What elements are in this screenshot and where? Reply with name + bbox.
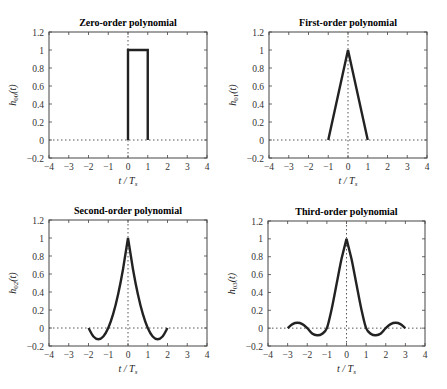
y-tick-label: −0.2	[246, 342, 263, 352]
y-tick-label: 0.2	[252, 118, 264, 128]
y-tick-label: −0.2	[27, 154, 44, 164]
y-tick-label: −0.2	[247, 154, 264, 164]
x-tick-label: 4	[425, 162, 430, 172]
y-tick-label: 1.2	[252, 28, 264, 38]
y-tick-label: 1	[259, 46, 264, 56]
figure: −4−3−2−101234−0.200.20.40.60.811.2Zero-o…	[0, 0, 447, 389]
x-tick-label: −2	[303, 162, 313, 172]
y-tick-label: 1	[39, 234, 44, 244]
subplot-title: Third-order polynomial	[295, 206, 398, 217]
y-tick-label: 0.8	[252, 64, 264, 74]
y-tick-label: 0.8	[32, 64, 44, 74]
x-tick-label: −4	[263, 350, 273, 360]
x-tick-label: −3	[284, 162, 294, 172]
y-tick-label: 0.6	[252, 82, 264, 92]
x-tick-label: −3	[64, 162, 74, 172]
impulse-response-curve	[128, 50, 148, 140]
x-tick-label: 3	[405, 162, 410, 172]
x-tick-label: 0	[344, 350, 349, 360]
x-tick-label: −1	[323, 162, 333, 172]
x-tick-label: 0	[346, 162, 351, 172]
x-tick-label: −1	[103, 350, 113, 360]
x-tick-label: 0	[126, 162, 131, 172]
x-tick-label: 1	[365, 162, 370, 172]
y-axis-label: h00(t)	[7, 84, 20, 106]
x-axis-label: t / Ts	[337, 363, 356, 376]
subplot-title: First-order polynomial	[299, 17, 397, 28]
x-tick-label: 3	[403, 350, 408, 360]
x-tick-label: −3	[283, 350, 293, 360]
x-tick-label: −2	[83, 162, 93, 172]
impulse-response-curve	[328, 50, 368, 140]
y-tick-label: 0.8	[32, 252, 44, 262]
y-tick-label: 1.2	[32, 216, 44, 226]
x-tick-label: −4	[44, 350, 54, 360]
x-tick-label: −1	[322, 350, 332, 360]
x-tick-label: 3	[185, 350, 190, 360]
y-tick-label: 0.6	[251, 270, 263, 280]
x-tick-label: −3	[64, 350, 74, 360]
x-tick-label: 4	[423, 350, 428, 360]
x-tick-label: −4	[264, 162, 274, 172]
x-tick-label: −2	[302, 350, 312, 360]
x-tick-label: 1	[145, 350, 150, 360]
x-tick-label: 1	[145, 162, 150, 172]
y-tick-label: 0.4	[251, 288, 263, 298]
x-axis-label: t / Ts	[119, 175, 138, 188]
y-tick-label: 0.6	[32, 270, 44, 280]
subplot-2: −4−3−2−101234−0.200.20.40.60.811.2First-…	[227, 17, 430, 188]
y-tick-label: 1.2	[251, 217, 263, 227]
y-tick-label: 0	[258, 324, 263, 334]
y-tick-label: 1	[39, 46, 44, 56]
x-tick-label: 3	[185, 162, 190, 172]
y-tick-label: 0	[39, 136, 44, 146]
y-tick-label: 0.4	[252, 100, 264, 110]
y-tick-label: 1	[258, 234, 263, 244]
y-tick-label: 0.4	[32, 100, 44, 110]
y-tick-label: 0.8	[251, 252, 263, 262]
subplot-4: −4−3−2−101234−0.200.20.40.60.811.2Third-…	[226, 206, 428, 376]
y-tick-label: −0.2	[27, 342, 44, 352]
x-tick-label: 4	[205, 350, 210, 360]
x-tick-label: 0	[126, 350, 131, 360]
x-tick-label: 2	[383, 350, 388, 360]
x-tick-label: 1	[364, 350, 369, 360]
y-tick-label: 0.2	[251, 306, 263, 316]
subplot-title: Zero-order polynomial	[79, 17, 177, 28]
x-axis-label: t / Ts	[119, 363, 138, 376]
subplot-1: −4−3−2−101234−0.200.20.40.60.811.2Zero-o…	[7, 17, 210, 188]
x-axis-label: t / Ts	[339, 175, 358, 188]
x-tick-label: −2	[83, 350, 93, 360]
y-tick-label: 0	[39, 324, 44, 334]
x-tick-label: 2	[165, 162, 170, 172]
y-tick-label: 0	[259, 136, 264, 146]
y-tick-label: 0.4	[32, 288, 44, 298]
subplot-title: Second-order polynomial	[74, 205, 182, 216]
subplot-3: −4−3−2−101234−0.200.20.40.60.811.2Second…	[7, 205, 210, 376]
x-tick-label: −4	[44, 162, 54, 172]
y-tick-label: 0.2	[32, 118, 44, 128]
y-axis-label: h02(t)	[7, 272, 20, 294]
y-axis-label: h03(t)	[226, 272, 239, 294]
x-tick-label: 4	[205, 162, 210, 172]
x-tick-label: 2	[165, 350, 170, 360]
y-tick-label: 0.2	[32, 306, 44, 316]
x-tick-label: −1	[103, 162, 113, 172]
y-tick-label: 0.6	[32, 82, 44, 92]
y-tick-label: 1.2	[32, 28, 44, 38]
x-tick-label: 2	[385, 162, 390, 172]
y-axis-label: h01(t)	[227, 84, 240, 106]
